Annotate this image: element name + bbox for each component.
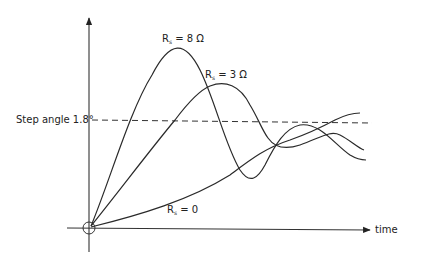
label-rs-0: Rs = 0 (167, 204, 198, 216)
label-rs-8: Rs = 8 Ω (162, 33, 204, 45)
curve-rs-3 (91, 84, 364, 226)
x-axis-label: time (375, 224, 398, 235)
step-angle-label: Step angle 1.8° (16, 114, 94, 125)
step-response-diagram: Step angle 1.8° Rs = 8 Ω Rs = 3 Ω Rs = 0… (0, 0, 424, 266)
label-rs-3: Rs = 3 Ω (205, 69, 247, 81)
x-axis (67, 228, 370, 230)
